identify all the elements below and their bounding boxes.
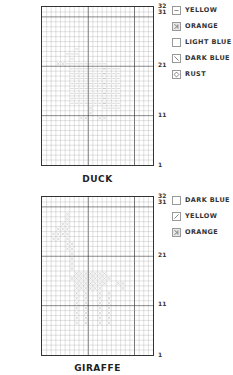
giraffe-row-label-1: 1 [158,352,162,358]
half-cross-icon [172,228,181,237]
legend-item-rust: RUST [172,66,232,82]
duck-title: DUCK [41,174,154,184]
legend-item-yellow: YELLOW [172,2,232,18]
diamond-icon [172,70,181,79]
blank-icon [172,38,181,47]
backslash-icon [172,54,181,63]
duck-row-label-11: 11 [158,112,166,118]
giraffe-title: GIRAFFE [41,363,154,373]
legend-item-dark-blue: DARK BLUE [172,50,232,66]
giraffe-legend: DARK BLUE YELLOW ORANGE [172,192,230,240]
slash-icon [172,212,181,221]
legend-item-orange: ORANGE [172,224,230,240]
half-cross-icon [172,22,181,31]
duck-row-label-31: 31 [158,9,166,15]
duck-chart-grid [41,6,154,166]
duck-legend: YELLOW ORANGE LIGHT BLUE DARK BLUE RUST [172,2,232,82]
dash-icon [172,6,181,15]
duck-stitch-pattern [42,7,153,165]
giraffe-row-label-11: 11 [158,301,166,307]
duck-row-label-21: 21 [158,62,166,68]
legend-item-orange: ORANGE [172,18,232,34]
blank-icon [172,196,181,205]
duck-row-label-1: 1 [158,162,162,168]
giraffe-row-label-31: 31 [158,199,166,205]
giraffe-chart-grid [41,196,154,356]
legend-item-yellow: YELLOW [172,208,230,224]
legend-item-light-blue: LIGHT BLUE [172,34,232,50]
legend-item-dark-blue: DARK BLUE [172,192,230,208]
giraffe-row-label-21: 21 [158,252,166,258]
giraffe-stitch-pattern [42,197,153,355]
